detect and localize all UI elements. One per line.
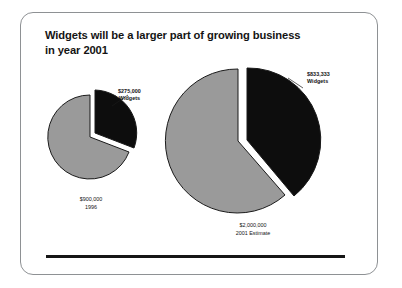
callout-value-2001: $833,333 (307, 71, 330, 77)
bottom-rule (46, 255, 345, 258)
pie-caption-2001: $2,000,000 2001 Estimate (208, 222, 298, 237)
callout-name-2001: Widgets (307, 78, 330, 85)
pie-caption-1996: $900,000 1996 (55, 196, 127, 211)
pie-chart-2001 (165, 68, 320, 213)
pie-caption-2001-year: 2001 Estimate (208, 230, 298, 238)
pie-caption-1996-year: 1996 (55, 204, 127, 212)
callout-label-2001: $833,333 Widgets (307, 71, 330, 85)
pie-charts-graphic (0, 0, 402, 288)
callout-name-1996: Widgets (118, 95, 141, 102)
pie-caption-2001-amount: $2,000,000 (240, 222, 267, 228)
callout-label-1996: $275,000 Widgets (118, 88, 141, 102)
callout-value-1996: $275,000 (118, 88, 141, 94)
slide-canvas: Widgets will be a larger part of growing… (0, 0, 402, 288)
pie-caption-1996-amount: $900,000 (80, 196, 102, 202)
pie-chart-1996 (48, 90, 137, 179)
